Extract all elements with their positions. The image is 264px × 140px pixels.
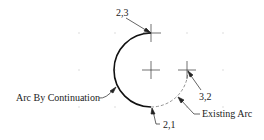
label-2-1: 2,1 <box>163 119 176 130</box>
label-arc-by-continuation: Arc By Continuation <box>16 92 100 103</box>
point-3-2-cross <box>178 61 196 79</box>
leader-existing-arc <box>178 97 200 114</box>
label-2-3: 2,3 <box>116 7 129 18</box>
point-2-3-cross <box>143 24 161 42</box>
label-3-2: 3,2 <box>199 91 212 102</box>
leader-2-3 <box>126 18 151 33</box>
label-existing-arc: Existing Arc <box>202 108 253 119</box>
leader-2-1 <box>151 108 160 124</box>
diagram-canvas: 2,3 3,2 2,1 Arc By Continuation Existing… <box>0 0 264 140</box>
leader-3-2 <box>188 71 201 90</box>
center-cross <box>142 61 160 79</box>
leader-arc-by-continuation <box>99 87 116 98</box>
